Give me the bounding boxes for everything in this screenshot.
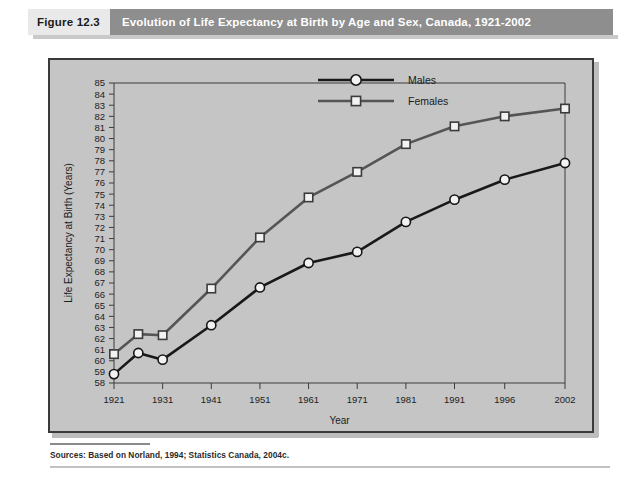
- y-tick-label: 84: [94, 89, 105, 100]
- x-axis-ticks: 1921193119411951196119711981199119962002: [103, 383, 575, 405]
- x-tick-label: 1971: [347, 394, 368, 405]
- panel-shadow-bottom: [52, 433, 598, 438]
- data-point: [304, 258, 313, 267]
- legend-males-circle-marker: [351, 75, 361, 85]
- y-tick-label: 68: [94, 266, 105, 277]
- y-tick-label: 82: [94, 111, 105, 122]
- y-tick-label: 59: [94, 366, 105, 377]
- data-point: [353, 247, 362, 256]
- y-tick-label: 76: [94, 177, 105, 188]
- source-divider: [50, 443, 150, 445]
- x-tick-label: 2002: [554, 394, 575, 405]
- x-tick-label: 1921: [103, 394, 124, 405]
- chart-legend: Males Females: [318, 74, 448, 107]
- females-line-path: [114, 109, 565, 355]
- x-tick-label: 1996: [494, 394, 515, 405]
- y-axis-ticks: 5859606162636465666768697071727374757677…: [94, 77, 114, 388]
- data-point: [255, 283, 264, 292]
- data-point: [134, 348, 143, 357]
- data-point: [109, 370, 118, 379]
- data-point: [134, 330, 142, 338]
- data-point: [304, 193, 312, 201]
- y-tick-label: 65: [94, 300, 105, 311]
- data-point: [401, 217, 410, 226]
- data-point: [501, 112, 509, 120]
- y-tick-label: 64: [94, 311, 105, 322]
- x-tick-label: 1981: [395, 394, 416, 405]
- data-point: [158, 355, 167, 364]
- legend-females-label: Females: [408, 95, 448, 107]
- x-axis-title: Year: [329, 415, 350, 426]
- chart-panel: 5859606162636465666768697071727374757677…: [48, 58, 594, 433]
- y-tick-label: 72: [94, 222, 105, 233]
- y-tick-label: 73: [94, 211, 105, 222]
- figure-header: Figure 12.3 Evolution of Life Expectancy…: [28, 9, 613, 35]
- series-females: [110, 104, 569, 358]
- data-point: [353, 168, 361, 176]
- data-point: [158, 331, 166, 339]
- source-note: Sources: Based on Norland, 1994; Statist…: [50, 450, 289, 460]
- x-tick-label: 1961: [298, 394, 319, 405]
- line-chart: 5859606162636465666768697071727374757677…: [50, 60, 592, 431]
- data-point: [207, 284, 215, 292]
- data-point: [450, 195, 459, 204]
- y-tick-label: 74: [94, 200, 105, 211]
- y-tick-label: 80: [94, 133, 105, 144]
- figure-number: Figure 12.3: [28, 9, 110, 35]
- panel-shadow-right: [594, 62, 599, 437]
- y-tick-label: 77: [94, 166, 105, 177]
- data-point: [207, 321, 216, 330]
- data-point: [110, 350, 118, 358]
- x-tick-label: 1931: [152, 394, 173, 405]
- y-tick-label: 58: [94, 377, 105, 388]
- figure-title: Evolution of Life Expectancy at Birth by…: [110, 9, 613, 35]
- y-tick-label: 60: [94, 355, 105, 366]
- legend-females-square-marker: [351, 96, 360, 105]
- legend-males-label: Males: [408, 74, 436, 86]
- data-point: [500, 175, 509, 184]
- bottom-divider: [50, 466, 610, 468]
- y-tick-label: 67: [94, 277, 105, 288]
- data-point: [561, 104, 569, 112]
- series-males: [109, 158, 569, 378]
- y-tick-label: 78: [94, 155, 105, 166]
- y-tick-label: 79: [94, 144, 105, 155]
- y-axis-title: Life Expectancy at Birth (Years): [63, 163, 74, 303]
- y-tick-label: 83: [94, 100, 105, 111]
- y-tick-label: 69: [94, 255, 105, 266]
- y-tick-label: 85: [94, 77, 105, 88]
- y-tick-label: 62: [94, 333, 105, 344]
- data-point: [256, 233, 264, 241]
- y-tick-label: 63: [94, 322, 105, 333]
- y-tick-label: 75: [94, 189, 105, 200]
- x-tick-label: 1991: [444, 394, 465, 405]
- x-tick-label: 1951: [249, 394, 270, 405]
- y-tick-label: 70: [94, 244, 105, 255]
- y-tick-label: 81: [94, 122, 105, 133]
- y-tick-label: 71: [94, 233, 105, 244]
- header-shadow: [33, 35, 618, 39]
- data-point: [560, 158, 569, 167]
- males-line-path: [114, 163, 565, 374]
- y-tick-label: 61: [94, 344, 105, 355]
- data-point: [450, 122, 458, 130]
- x-tick-label: 1941: [201, 394, 222, 405]
- y-tick-label: 66: [94, 289, 105, 300]
- data-point: [402, 140, 410, 148]
- males-markers: [109, 158, 569, 378]
